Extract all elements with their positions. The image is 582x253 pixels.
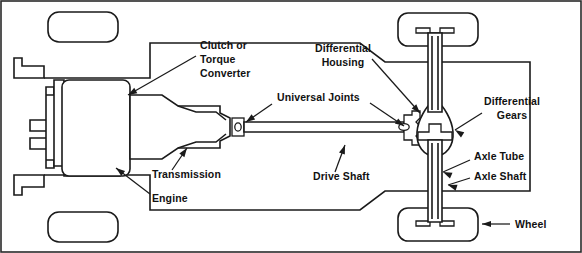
label-line: Housing <box>322 56 365 68</box>
engine-block-group <box>30 80 130 176</box>
arrow-head-transmission <box>179 148 187 157</box>
label-axle-shaft: Axle Shaft <box>474 170 527 182</box>
leader-line-axle-shaft <box>448 178 470 185</box>
arrow-head-axle-tube <box>443 172 452 178</box>
label-differential-gears: DifferentialGears <box>484 95 540 121</box>
label-line: Engine <box>152 192 188 204</box>
drivetrain-diagram: Clutch orTorqueConverterUniversal Joints… <box>0 0 582 253</box>
label-line: Drive Shaft <box>313 170 370 182</box>
label-transmission: Transmission <box>152 168 221 180</box>
label-line: Gears <box>497 109 527 121</box>
label-clutch-or-torque-converter: Clutch orTorqueConverter <box>200 39 251 79</box>
transmission-group <box>130 95 230 159</box>
arrow-head-universal-joints <box>246 114 255 122</box>
axle-tube-upper <box>428 33 442 112</box>
label-line: Transmission <box>152 168 221 180</box>
label-differential-housing: DifferentialHousing <box>315 42 371 68</box>
label-line: Wheel <box>515 218 546 230</box>
label-engine: Engine <box>152 192 188 204</box>
label-wheel: Wheel <box>515 218 546 230</box>
label-line: Axle Tube <box>474 150 524 162</box>
leader-line-axle-tube <box>443 160 470 172</box>
label-drive-shaft: Drive Shaft <box>313 170 370 182</box>
engine-accessory-bracket <box>30 87 54 168</box>
front-bumper-upper <box>14 58 44 78</box>
front-bumper-lower <box>14 175 44 195</box>
label-line: Torque <box>200 53 235 65</box>
label-line: Converter <box>200 67 251 79</box>
label-line: Axle Shaft <box>474 170 527 182</box>
label-line: Differential <box>484 95 540 107</box>
transmission-body <box>130 95 230 159</box>
drive-shaft-tube <box>244 122 404 132</box>
label-line: Differential <box>315 42 371 54</box>
front-wheel-right <box>48 212 118 242</box>
label-line: Universal Joints <box>277 91 360 103</box>
label-axle-tube: Axle Tube <box>474 150 524 162</box>
ujoint-front-cross <box>235 123 241 131</box>
drivetrain-svg-canvas: Clutch orTorqueConverterUniversal Joints… <box>0 0 582 253</box>
label-line: Clutch or <box>200 39 247 51</box>
engine-block <box>62 80 130 176</box>
arrow-head-axle-shaft <box>448 185 458 191</box>
arrow-head-differential-gears <box>455 130 464 137</box>
universal-joint-front-group <box>232 118 244 136</box>
arrow-head-drive-shaft <box>339 145 345 155</box>
leader-line-differential-gears <box>455 113 482 130</box>
leader-line-clutch-or-torque-converter <box>128 56 196 95</box>
leader-line-differential-housing <box>372 59 420 113</box>
arrow-head-wheel <box>482 221 491 227</box>
axle-tube-lower <box>428 140 442 222</box>
label-universal-joints: Universal Joints <box>277 91 360 103</box>
front-wheel-left <box>48 12 118 42</box>
